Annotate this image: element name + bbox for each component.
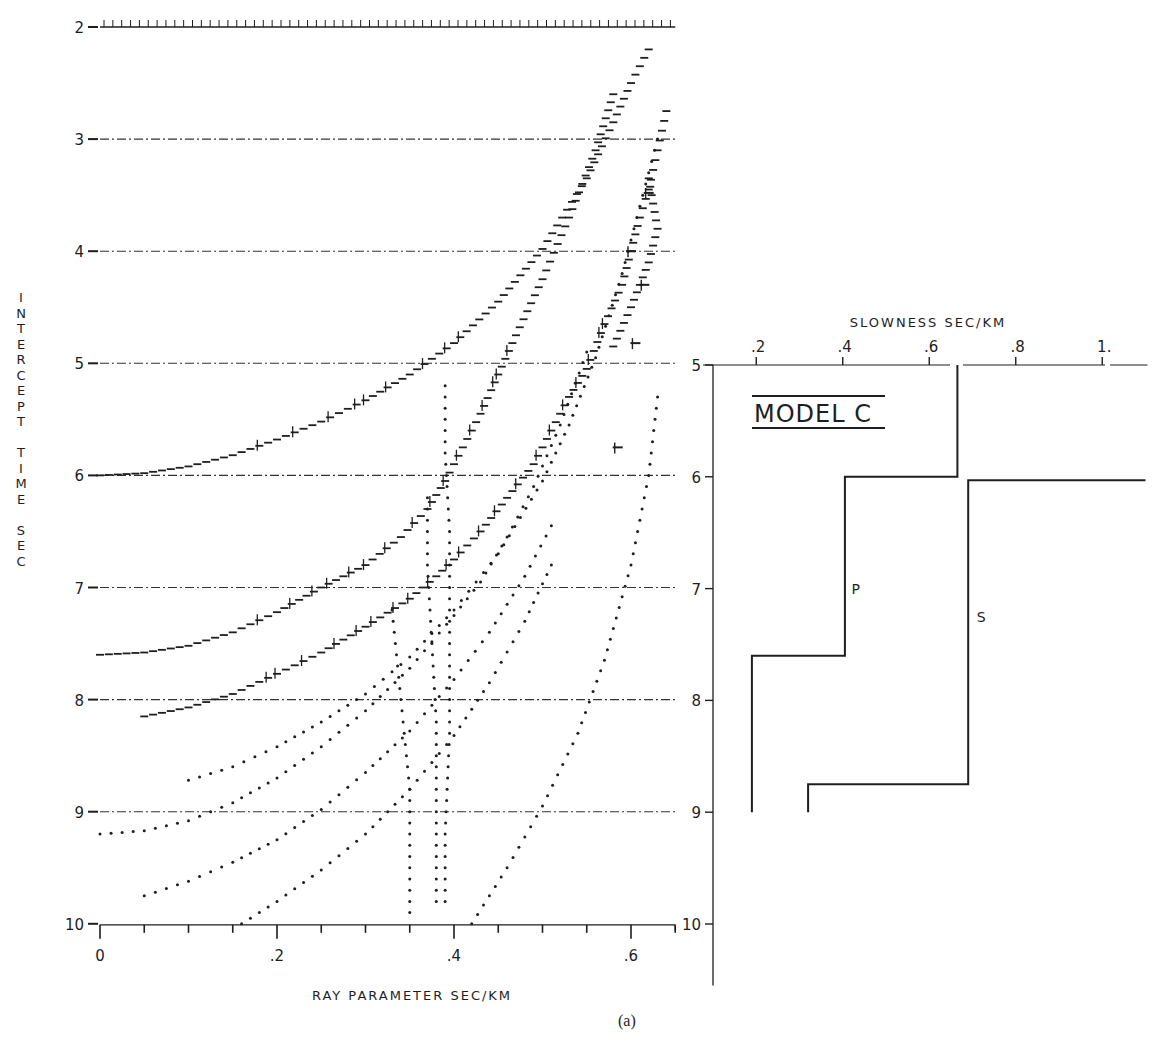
- trace-dot: [444, 463, 447, 466]
- trace-dot: [571, 742, 574, 745]
- trace-dot: [643, 496, 646, 499]
- trace-dot: [355, 716, 358, 719]
- trace-dot: [435, 810, 438, 813]
- trace-dot: [386, 688, 389, 691]
- trace-dot: [550, 524, 553, 527]
- slowness-tick-label: 1.: [1097, 338, 1111, 356]
- trace-dot: [364, 771, 367, 774]
- trace-dot: [444, 440, 447, 443]
- trace-dot: [614, 293, 617, 296]
- trace-dot: [566, 403, 569, 406]
- trace-dot: [394, 642, 397, 645]
- trace-dot: [475, 580, 478, 583]
- trace-dot: [561, 763, 564, 766]
- trace-dot: [346, 786, 349, 789]
- trace-dot: [434, 698, 437, 701]
- trace-dot: [541, 582, 544, 585]
- trace-dot: [652, 429, 655, 432]
- trace-dot: [588, 701, 591, 704]
- trace-dot: [447, 519, 450, 522]
- trace-dot: [394, 681, 397, 684]
- trace-dot: [379, 818, 382, 821]
- trace-dot: [479, 580, 482, 583]
- trace-dot: [220, 806, 223, 809]
- trace-dot: [506, 866, 509, 869]
- trace-dot: [329, 861, 332, 864]
- trace-dot: [220, 865, 223, 868]
- trace-dot: [554, 434, 557, 437]
- trace-dot: [337, 793, 340, 796]
- trace-dot: [599, 669, 602, 672]
- trace-dot: [408, 911, 411, 914]
- profile-label-P: P: [851, 581, 859, 597]
- trace-dot: [408, 729, 411, 732]
- trace-dot: [522, 505, 525, 508]
- trace-dot: [110, 832, 113, 835]
- trace-dot: [444, 866, 447, 869]
- trace-dot: [99, 833, 102, 836]
- trace-dot: [403, 732, 406, 735]
- slowness-tick-label: .6: [924, 338, 938, 356]
- trace-dot: [444, 833, 447, 836]
- trace-dot: [435, 721, 438, 724]
- trace-dot: [506, 650, 509, 653]
- trace-dot: [448, 698, 451, 701]
- trace-dot: [240, 856, 243, 859]
- trace-dot: [401, 674, 404, 677]
- trace-dot: [644, 182, 647, 185]
- trace-dot: [634, 541, 637, 544]
- trace-dot: [570, 392, 573, 395]
- trace-dot: [630, 564, 633, 567]
- trace-dot: [447, 508, 450, 511]
- trace-dot: [448, 687, 451, 690]
- trace-dot: [311, 725, 314, 728]
- trace-dot: [379, 695, 382, 698]
- trace-dot: [258, 911, 261, 914]
- trace-dot: [402, 721, 405, 724]
- trace-dot: [523, 575, 526, 578]
- trace-dot: [539, 545, 542, 548]
- trace-dot: [426, 541, 429, 544]
- trace-dot: [396, 664, 399, 667]
- trace-dot: [541, 480, 544, 483]
- trace-dot: [438, 632, 441, 635]
- y-tick-label: 7: [74, 580, 84, 598]
- trace-dot: [448, 552, 451, 555]
- trace-dot: [143, 829, 146, 832]
- series-curve-9: [609, 178, 661, 346]
- trace-dot: [612, 627, 615, 630]
- trace-dot: [302, 758, 305, 761]
- trace-dot: [466, 597, 469, 600]
- trace-dot: [267, 843, 270, 846]
- trace-dot: [519, 516, 522, 519]
- time-tick-label: 10: [682, 916, 701, 934]
- trace-dot: [517, 630, 520, 633]
- trace-dot: [512, 856, 515, 859]
- trace-dot: [566, 753, 569, 756]
- trace-dot: [624, 585, 627, 588]
- tau-p-plot: 23456789100.2.4.6RAY PARAMETER SEC/KM: [65, 19, 675, 1003]
- trace-dot: [444, 900, 447, 903]
- trace-dot: [426, 496, 429, 499]
- series-curve-7: [240, 564, 553, 926]
- trace-dot: [240, 796, 243, 799]
- time-tick-label: 7: [691, 581, 701, 599]
- trace-dot: [408, 667, 411, 670]
- trace-dot: [416, 658, 419, 661]
- trace-dot: [551, 784, 554, 787]
- trace-dot: [408, 799, 411, 802]
- trace-dot: [500, 661, 503, 664]
- trace-dot: [231, 861, 234, 864]
- trace-dot: [556, 773, 559, 776]
- trace-dot: [624, 261, 627, 264]
- trace-dot: [444, 407, 447, 410]
- trace-dot: [444, 855, 447, 858]
- trace-dot: [587, 375, 590, 378]
- trace-dot: [435, 732, 438, 735]
- trace-dot: [445, 474, 448, 477]
- trace-dot: [444, 877, 447, 880]
- trace-dot: [393, 631, 396, 634]
- trace-dot: [638, 205, 641, 208]
- trace-dot: [240, 922, 243, 925]
- trace-dot: [470, 922, 473, 925]
